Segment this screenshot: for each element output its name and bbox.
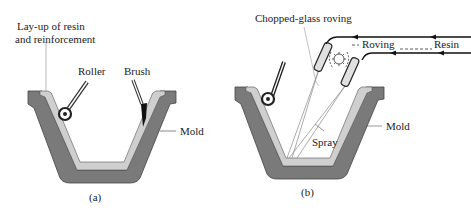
mold-a-label: Mold bbox=[180, 125, 204, 137]
layup-label-line1: Lay-up of resin bbox=[17, 20, 85, 32]
spray-label: Spray bbox=[312, 136, 338, 148]
brush-label: Brush bbox=[124, 65, 150, 77]
chopped-glass-label: Chopped-glass roving bbox=[255, 12, 352, 24]
resin-label: Resin bbox=[434, 38, 459, 50]
mold-b-label: Mold bbox=[386, 120, 410, 132]
chopper-icon bbox=[329, 52, 348, 68]
mold-a bbox=[28, 91, 176, 183]
roller-b-icon bbox=[262, 62, 284, 105]
caption-b: (b) bbox=[301, 186, 314, 198]
roller-label: Roller bbox=[78, 65, 106, 77]
roving-label: Roving bbox=[362, 38, 394, 50]
roller-a-icon bbox=[59, 82, 87, 120]
caption-a: (a) bbox=[89, 191, 101, 203]
brush-a-icon bbox=[133, 80, 147, 127]
layup-label-line2: and reinforcement bbox=[15, 33, 95, 45]
